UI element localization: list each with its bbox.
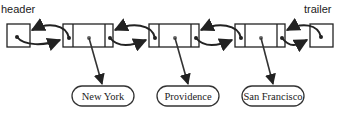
element-new-york: New York: [72, 86, 134, 106]
element-label-providence: Providence: [164, 91, 212, 102]
node-3: [235, 24, 285, 47]
element-san-francisco: San Francisco: [242, 86, 304, 106]
element-label-new-york: New York: [82, 91, 125, 102]
element-providence: Providence: [157, 86, 219, 106]
node-1: [63, 24, 113, 47]
doubly-linked-list-diagram: New York Providence San Francisco: [0, 0, 340, 114]
element-label-san-francisco: San Francisco: [243, 91, 302, 102]
node-2: [149, 24, 199, 47]
